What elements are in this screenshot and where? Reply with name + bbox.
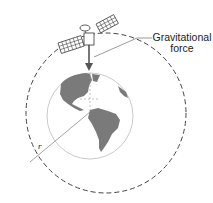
force-label-line2: force [152,43,212,54]
solar-panel-right [96,15,118,33]
satellite-body [84,33,94,45]
satellite [58,15,118,54]
radius-label: r [38,141,42,152]
gravitational-force-label: Gravitational force [152,32,212,54]
gravitational-force-arrowhead [85,63,93,71]
satellite-dish [80,25,90,31]
force-leader-line [94,38,152,57]
solar-panel-left [58,36,84,54]
